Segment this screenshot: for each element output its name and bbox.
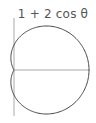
polar-plot: [0, 0, 96, 123]
